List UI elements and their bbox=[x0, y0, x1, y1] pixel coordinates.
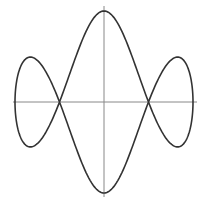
curve-figure bbox=[0, 0, 202, 206]
